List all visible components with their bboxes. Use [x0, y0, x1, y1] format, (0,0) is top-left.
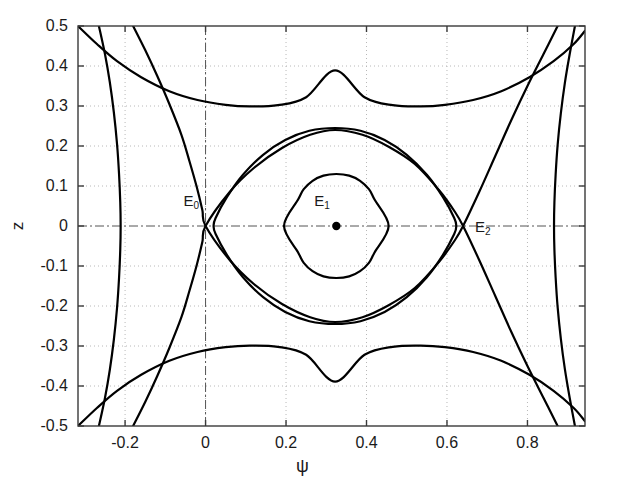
equilibrium-point-marker [332, 222, 340, 230]
equilibrium-label-base: E [475, 218, 485, 235]
equilibrium-label-e0: E0 [184, 192, 200, 209]
equilibrium-label-e2: E2 [475, 218, 491, 235]
x-tick-label: 0.2 [275, 434, 297, 452]
y-tick-label: 0.1 [46, 177, 68, 195]
y-tick-label: 0 [59, 217, 68, 235]
x-tick-label: -0.2 [111, 434, 139, 452]
x-tick-label: 0.4 [355, 434, 377, 452]
equilibrium-label-subscript: 0 [194, 200, 200, 211]
equilibrium-label-base: E [184, 192, 194, 209]
y-tick-label: -0.5 [40, 417, 68, 435]
y-tick-label: 0.3 [46, 97, 68, 115]
equilibrium-label-e1: E1 [314, 192, 330, 209]
y-tick-label: -0.3 [40, 337, 68, 355]
equilibrium-label-subscript: 1 [324, 200, 330, 211]
y-axis-label: z [8, 222, 28, 231]
plot-canvas [0, 0, 618, 478]
y-tick-label: -0.2 [40, 297, 68, 315]
equilibrium-label-base: E [314, 192, 324, 209]
x-tick-label: 0.6 [436, 434, 458, 452]
y-tick-label: 0.2 [46, 137, 68, 155]
phase-portrait-figure: -0.200.20.40.60.80.50.40.30.20.10-0.1-0.… [0, 0, 618, 478]
y-tick-label: -0.4 [40, 377, 68, 395]
equilibrium-label-subscript: 2 [485, 226, 491, 237]
x-tick-label: 0.8 [516, 434, 538, 452]
y-tick-label: 0.5 [46, 17, 68, 35]
y-tick-label: -0.1 [40, 257, 68, 275]
equilibrium-markers [332, 222, 340, 230]
x-axis-label: ψ [296, 456, 309, 477]
x-tick-label: 0 [201, 434, 210, 452]
y-tick-label: 0.4 [46, 57, 68, 75]
